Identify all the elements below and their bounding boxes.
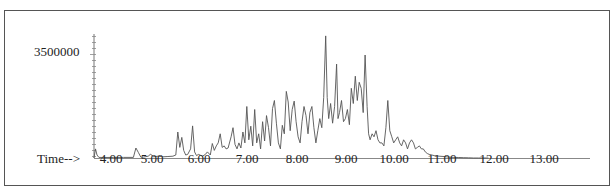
x-axis-title: Time--> <box>37 151 80 167</box>
x-tick-8: 8.00 <box>286 151 309 167</box>
x-tick-4: 4.00 <box>100 151 123 167</box>
x-tick-13: 13.00 <box>529 151 558 167</box>
x-tick-11: 11.00 <box>428 151 457 167</box>
x-tick-6: 6.00 <box>188 151 211 167</box>
y-axis-label-3500000: 3500000 <box>34 44 80 60</box>
x-tick-9: 9.00 <box>335 151 358 167</box>
x-tick-5: 5.00 <box>141 151 164 167</box>
x-tick-7: 7.00 <box>236 151 259 167</box>
y-axis-minor-ticks <box>90 37 96 157</box>
chromatogram-trace <box>94 36 488 158</box>
x-tick-12: 12.00 <box>479 151 508 167</box>
x-tick-10: 10.00 <box>379 151 408 167</box>
